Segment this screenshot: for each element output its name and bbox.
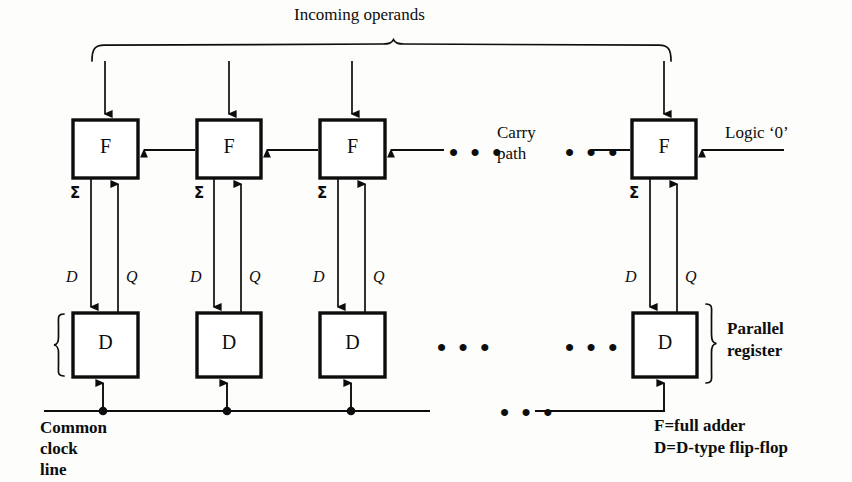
d-port-label-d3: D — [313, 268, 325, 285]
parallel-register-label-line1: Parallel — [727, 320, 784, 338]
register-group-brace — [54, 314, 64, 376]
d-port-label-d1: D — [66, 268, 78, 285]
sum-output-label-f1: Σ — [70, 185, 80, 201]
q-port-label-d4: Q — [685, 268, 697, 285]
adder-cell-label-f2: F — [197, 136, 261, 158]
adder-cell-label-f3: F — [320, 136, 385, 158]
carry-ellipsis-left: • • • — [449, 140, 504, 166]
diagram-canvas — [0, 0, 852, 482]
common-clock-label-line3: line — [40, 461, 66, 479]
d-port-label-d4: D — [625, 268, 637, 285]
sum-output-label-f2: Σ — [194, 185, 204, 201]
register-ellipsis-right: • • • — [565, 335, 620, 361]
register-cell-label-d3: D — [320, 332, 385, 354]
common-clock-label-line1: Common — [40, 419, 107, 437]
parallel-register-label-line2: register — [727, 342, 782, 360]
q-port-label-d2: Q — [249, 268, 261, 285]
legend-line-full-adder: F=full adder — [654, 417, 745, 435]
sum-and-feedback-lines-3 — [338, 178, 365, 313]
register-cell-label-d4: D — [633, 332, 697, 354]
incoming-operands-brace — [92, 40, 671, 61]
sum-and-feedback-lines-4 — [650, 178, 677, 313]
q-port-label-d3: Q — [373, 268, 385, 285]
operand-input-arrows — [105, 61, 664, 114]
d-port-label-d2: D — [190, 268, 202, 285]
common-clock-label-line2: clock — [40, 440, 78, 458]
q-port-label-d1: Q — [126, 268, 138, 285]
register-cell-label-d1: D — [73, 332, 138, 354]
figure-root: F F F F Σ Σ Σ Σ D Q D Q D Q D Q D D D D … — [0, 0, 852, 482]
clock-line-ellipsis: • • • — [500, 400, 555, 426]
sum-output-label-f3: Σ — [317, 185, 327, 201]
sum-and-feedback-lines-2 — [214, 178, 241, 313]
carry-ellipsis-right: • • • — [565, 140, 620, 166]
legend-line-flip-flop: D=D-type flip-flop — [654, 439, 788, 457]
register-cell-label-d2: D — [197, 332, 261, 354]
logic-zero-label: Logic ‘0’ — [725, 124, 789, 142]
register-ellipsis-left: • • • — [437, 335, 492, 361]
incoming-operands-label: Incoming operands — [294, 6, 425, 24]
parallel-register-brace — [706, 304, 717, 383]
adder-cell-label-f4: F — [632, 136, 696, 158]
adder-cell-label-f1: F — [73, 136, 138, 158]
sum-output-label-f4: Σ — [629, 185, 639, 201]
sum-and-feedback-lines-1 — [91, 178, 118, 313]
